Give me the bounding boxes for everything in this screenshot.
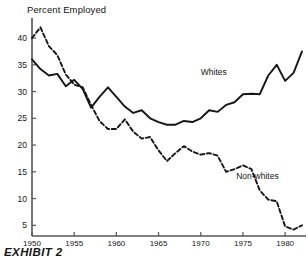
y-tick-label: 20 bbox=[5, 140, 27, 150]
y-tick-label: 25 bbox=[5, 113, 27, 123]
x-tick-label: 1975 bbox=[234, 239, 252, 248]
x-tick-label: 1980 bbox=[276, 239, 294, 248]
series-label-non-whites: Non-whites bbox=[236, 171, 279, 181]
y-tick-label: 30 bbox=[5, 87, 27, 97]
series-label-whites: Whites bbox=[201, 67, 227, 77]
exhibit-caption: EXHIBIT 2 bbox=[4, 246, 63, 258]
chart-series bbox=[32, 27, 302, 229]
y-tick-label: 35 bbox=[5, 60, 27, 70]
x-tick-label: 1960 bbox=[107, 239, 125, 248]
series-line-whites bbox=[32, 51, 302, 124]
y-tick-label: 5 bbox=[5, 220, 27, 230]
chart-figure: Percent Employed 510152025303540 1950195… bbox=[0, 0, 308, 263]
y-tick-label: 15 bbox=[5, 167, 27, 177]
chart-y-axis-title: Percent Employed bbox=[27, 4, 106, 15]
chart-plot-area bbox=[0, 0, 308, 263]
x-tick-label: 1965 bbox=[150, 239, 168, 248]
y-tick-label: 10 bbox=[5, 194, 27, 204]
x-tick-label: 1970 bbox=[192, 239, 210, 248]
y-tick-label: 40 bbox=[5, 33, 27, 43]
chart-axes bbox=[32, 18, 306, 236]
series-line-non-whites bbox=[32, 27, 302, 229]
x-tick-label: 1955 bbox=[65, 239, 83, 248]
